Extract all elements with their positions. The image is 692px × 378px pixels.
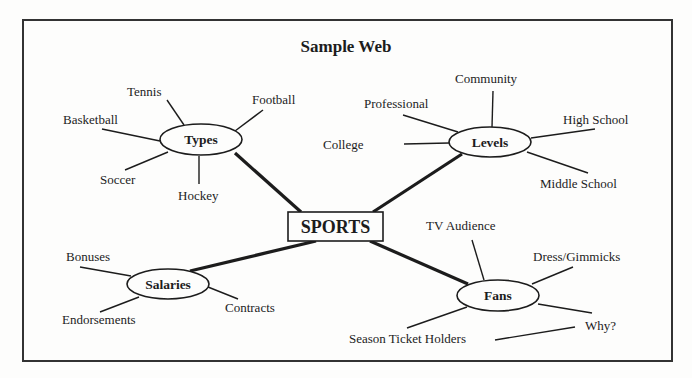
connector-fans <box>370 241 468 284</box>
diagram-title: Sample Web <box>301 37 392 56</box>
leaf-tennis: Tennis <box>127 84 161 99</box>
spoke-high-school <box>531 129 595 138</box>
spoke-middle-school <box>527 152 588 173</box>
spoke-tennis <box>167 100 184 125</box>
connector-types <box>235 153 301 212</box>
leaf-dress-gimmicks: Dress/Gimmicks <box>533 249 620 264</box>
spoke-community <box>492 91 493 127</box>
spoke-soccer <box>125 152 168 170</box>
spoke-why <box>538 304 592 313</box>
branch-node-levels: Levels <box>449 127 531 157</box>
leaf-season-ticket-holders: Season Ticket Holders <box>349 331 466 346</box>
center-label: SPORTS <box>301 217 370 237</box>
spoke-football <box>235 110 263 131</box>
spoke-dress-gimmicks <box>532 267 573 284</box>
leaf-middle-school: Middle School <box>540 176 617 191</box>
leaf-why: Why? <box>585 318 616 333</box>
spoke-basketball <box>102 129 160 141</box>
leaf-college: College <box>323 137 364 152</box>
leaf-bonuses: Bonuses <box>66 249 110 264</box>
spoke-bonuses <box>80 267 131 276</box>
spoke-season-ticket-holders <box>407 307 467 328</box>
spoke-professional <box>403 115 458 132</box>
center-node: SPORTS <box>288 212 383 241</box>
branch-label-levels: Levels <box>472 135 509 150</box>
leaf-tv-audience: TV Audience <box>426 218 496 233</box>
branch-label-fans: Fans <box>484 288 512 303</box>
spoke-endorsements <box>100 297 139 312</box>
connector-levels <box>373 154 462 212</box>
branch-label-types: Types <box>184 132 218 147</box>
branch-node-salaries: Salaries <box>127 269 209 299</box>
branch-label-salaries: Salaries <box>145 277 191 292</box>
leaf-endorsements: Endorsements <box>62 312 136 327</box>
branch-node-fans: Fans <box>457 280 539 311</box>
leaf-community: Community <box>455 71 518 86</box>
leaf-soccer: Soccer <box>100 172 136 187</box>
branch-node-types: Types <box>160 124 242 155</box>
leaf-basketball: Basketball <box>63 112 118 127</box>
link-season-to-why <box>495 327 575 340</box>
spoke-tv-audience <box>472 240 484 280</box>
leaf-professional: Professional <box>364 96 429 111</box>
spoke-college <box>404 143 449 144</box>
leaf-hockey: Hockey <box>178 188 219 203</box>
leaf-contracts: Contracts <box>225 300 275 315</box>
leaf-high-school: High School <box>563 112 629 127</box>
leaf-football: Football <box>252 92 296 107</box>
spoke-contracts <box>208 287 238 299</box>
sports-web-diagram: Sample Web SPORTS <box>0 0 692 378</box>
connector-salaries <box>190 241 316 271</box>
